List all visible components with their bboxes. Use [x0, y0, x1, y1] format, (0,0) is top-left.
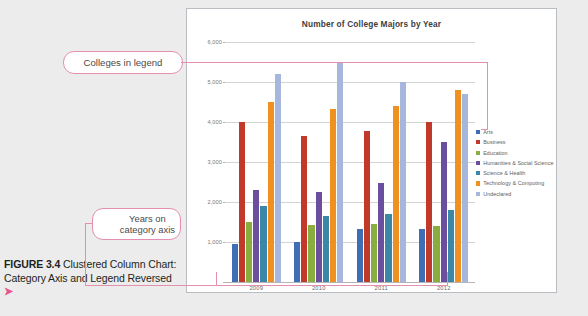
bar[interactable] [441, 142, 447, 282]
legend-label: Technology & Computing [483, 180, 544, 186]
bar[interactable] [268, 102, 274, 282]
legend-item[interactable]: Arts [476, 129, 558, 135]
annotation-line-years-vertical-left [85, 223, 86, 286]
annotation-line-legend-horizontal [181, 62, 488, 63]
bar[interactable] [246, 222, 252, 282]
legend-item[interactable]: Science & Health [476, 170, 558, 176]
chart-frame: Number of College Majors by Year 1,0002,… [186, 8, 557, 293]
bar[interactable] [337, 63, 343, 282]
bar[interactable] [357, 229, 363, 282]
annotation-colleges-in-legend: Colleges in legend [63, 51, 183, 74]
bar[interactable] [400, 82, 406, 282]
legend-swatch-icon [476, 130, 480, 134]
bar-group-2011 [350, 42, 413, 282]
legend-item[interactable]: Business [476, 139, 558, 145]
legend-label: Humanities & Social Science [483, 160, 553, 166]
annotation-line-legend-hook [481, 129, 488, 130]
x-axis-line [225, 282, 475, 283]
y-axis-tick-label: 5,000 [208, 79, 223, 85]
annotation-years-label: Years on category axis [120, 213, 175, 236]
bar[interactable] [232, 244, 238, 282]
y-axis-tick-label: 4,000 [208, 119, 223, 125]
bar[interactable] [448, 210, 454, 282]
legend-label: Education [483, 150, 507, 156]
annotation-colleges-in-legend-label: Colleges in legend [84, 57, 163, 68]
y-axis-tick-label: 2,000 [208, 199, 223, 205]
bar[interactable] [385, 214, 391, 282]
bar[interactable] [308, 225, 314, 282]
bar[interactable] [455, 90, 461, 282]
legend-swatch-icon [476, 140, 480, 144]
bar[interactable] [275, 74, 281, 282]
bar[interactable] [316, 192, 322, 282]
figure-caption: FIGURE 3.4 Clustered Column Chart: Categ… [4, 258, 180, 299]
y-axis-tick-label: 6,000 [208, 39, 223, 45]
caption-arrow-icon: ➤ [4, 285, 13, 297]
legend-item[interactable]: Technology & Computing [476, 180, 558, 186]
bar[interactable] [294, 242, 300, 282]
legend-swatch-icon [476, 181, 480, 185]
bar[interactable] [419, 229, 425, 282]
chart-legend: ArtsBusinessEducationHumanities & Social… [476, 129, 558, 201]
annotation-line-years-vertical-start [216, 272, 217, 286]
bar-group-2009 [225, 42, 288, 282]
annotation-years-line2: category axis [120, 224, 175, 235]
legend-label: Undeclared [483, 191, 511, 197]
legend-item[interactable]: Education [476, 150, 558, 156]
bar[interactable] [301, 136, 307, 282]
bar[interactable] [378, 183, 384, 282]
bar[interactable] [371, 224, 377, 282]
legend-label: Business [483, 139, 505, 145]
annotation-line-years-horizontal [85, 285, 448, 286]
legend-item[interactable]: Humanities & Social Science [476, 160, 558, 166]
y-axis-tick-label: 1,000 [208, 239, 223, 245]
bar[interactable] [253, 190, 259, 282]
bar[interactable] [393, 106, 399, 282]
bar-group-2012 [413, 42, 476, 282]
y-axis-tick-label: 3,000 [208, 159, 223, 165]
bar[interactable] [239, 122, 245, 282]
legend-item[interactable]: Undeclared [476, 191, 558, 197]
legend-label: Science & Health [483, 170, 525, 176]
bar[interactable] [323, 216, 329, 282]
legend-swatch-icon [476, 161, 480, 165]
bar[interactable] [462, 94, 468, 282]
chart-title: Number of College Majors by Year [187, 19, 556, 29]
annotation-line-legend-vertical [487, 62, 488, 130]
bar-groups [225, 42, 475, 282]
legend-swatch-icon [476, 171, 480, 175]
figure-number: FIGURE 3.4 [4, 258, 60, 270]
annotation-line-years-vertical-right [447, 272, 448, 286]
bar[interactable] [426, 122, 432, 282]
legend-swatch-icon [476, 151, 480, 155]
bar-group-2010 [288, 42, 351, 282]
plot-area: 1,0002,0003,0004,0005,0006,000 [225, 42, 475, 282]
bar[interactable] [330, 109, 336, 282]
bar[interactable] [260, 206, 266, 282]
annotation-line-years-stub [85, 223, 93, 224]
y-axis-tick-mark-zero [223, 282, 225, 283]
bar[interactable] [433, 226, 439, 282]
annotation-years-line1: Years on [129, 213, 166, 224]
annotation-years-on-category-axis: Years on category axis [92, 208, 181, 240]
legend-swatch-icon [476, 192, 480, 196]
bar[interactable] [364, 131, 370, 282]
